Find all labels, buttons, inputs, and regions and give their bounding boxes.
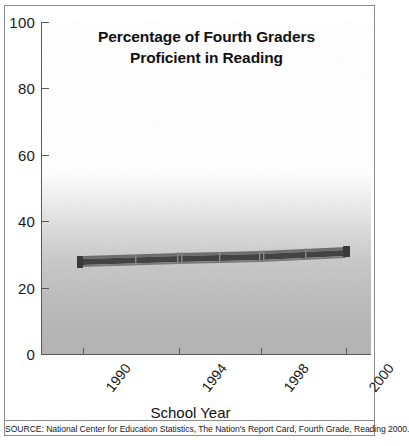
chart-title: Percentage of Fourth Graders Proficient … xyxy=(42,26,371,69)
data-series-ribbon xyxy=(5,6,376,437)
source-divider xyxy=(5,420,374,421)
chart-title-line-1: Percentage of Fourth Graders xyxy=(42,26,371,47)
ribbon-body xyxy=(77,246,350,268)
x-axis-title: School Year xyxy=(5,404,376,421)
chart-figure: 100 80 60 40 20 0 1990 1994 1998 2000 xyxy=(4,5,375,436)
chart-title-line-2: Proficient in Reading xyxy=(42,47,371,68)
source-note: SOURCE: National Center for Education St… xyxy=(5,424,376,434)
